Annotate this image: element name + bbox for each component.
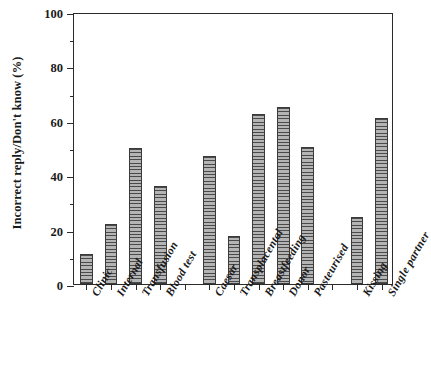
- y-tick-60: [67, 123, 74, 124]
- y-tick-label-100: 100: [44, 8, 63, 21]
- y-tick-0: [67, 286, 74, 287]
- y-tick-label-40: 40: [51, 171, 64, 184]
- x-tick-transplacental: [234, 284, 235, 290]
- bar-clinic: [80, 254, 93, 284]
- bar-caesar: [203, 156, 216, 284]
- y-minor-tick-70: [70, 96, 74, 97]
- x-tick-transfusion: [136, 284, 137, 290]
- bar-kissing: [351, 217, 364, 284]
- bar-pasteurised: [301, 147, 314, 284]
- y-tick-label-20: 20: [51, 225, 64, 238]
- x-tick-breastfeeding: [259, 284, 260, 290]
- x-tick-clinic: [86, 284, 87, 290]
- bar-single-partner: [375, 118, 388, 284]
- y-tick-40: [67, 177, 74, 178]
- y-tick-80: [67, 68, 74, 69]
- x-tick-single-partner: [382, 284, 383, 290]
- y-minor-tick-30: [70, 204, 74, 205]
- y-minor-tick-10: [70, 259, 74, 260]
- y-tick-100: [67, 14, 74, 15]
- x-tick-donor: [283, 284, 284, 290]
- y-tick-label-80: 80: [51, 62, 64, 75]
- x-tick-caesar: [209, 284, 210, 290]
- x-tick-pasteurised: [308, 284, 309, 290]
- x-tick-kissing: [357, 284, 358, 290]
- y-minor-tick-90: [70, 41, 74, 42]
- x-tick-gap: [332, 284, 333, 290]
- y-minor-tick-50: [70, 150, 74, 151]
- y-tick-label-0: 0: [57, 280, 63, 293]
- y-tick-label-60: 60: [51, 117, 64, 130]
- x-tick-internal: [111, 284, 112, 290]
- x-tick-blood-test: [160, 284, 161, 290]
- y-tick-20: [67, 232, 74, 233]
- x-tick-gap: [185, 284, 186, 290]
- y-axis-title: Incorrect reply/Don't know (%): [10, 28, 28, 258]
